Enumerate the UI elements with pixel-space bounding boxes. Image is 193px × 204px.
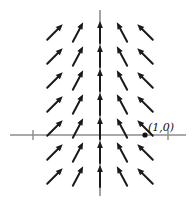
arrow-2	[97, 21, 103, 43]
arrow-12	[97, 69, 103, 91]
axes-group	[10, 10, 186, 196]
arrow-shaft-9	[141, 52, 153, 64]
arrow-shaft-8	[119, 51, 127, 66]
arrow-33	[117, 166, 127, 185]
arrow-18	[117, 94, 127, 113]
arrow-shaft-33	[119, 171, 127, 186]
point-label-1-0: (1,0)	[148, 121, 174, 134]
arrow-14	[137, 72, 153, 88]
arrow-shaft-25	[47, 148, 59, 160]
arrow-shaft-0	[47, 28, 59, 40]
arrow-head-17	[97, 93, 103, 100]
arrow-field-group	[47, 21, 153, 187]
arrow-31	[73, 166, 83, 185]
arrow-6	[73, 46, 83, 65]
arrow-shaft-1	[73, 27, 81, 42]
arrow-5	[47, 48, 63, 64]
arrow-shaft-30	[47, 172, 59, 184]
arrow-30	[47, 168, 63, 184]
arrow-head-12	[97, 69, 103, 76]
arrow-head-27	[97, 141, 103, 148]
arrow-shaft-34	[141, 172, 153, 184]
arrow-8	[117, 46, 127, 65]
arrow-shaft-28	[119, 147, 127, 162]
arrow-32	[97, 165, 103, 187]
arrow-25	[47, 144, 63, 160]
arrow-7	[97, 45, 103, 67]
arrow-head-22	[97, 117, 103, 124]
arrow-15	[47, 96, 63, 112]
vector-field-figure: (1,0)	[0, 0, 193, 204]
arrow-27	[97, 141, 103, 163]
arrow-shaft-6	[73, 51, 81, 66]
arrow-26	[73, 142, 83, 161]
point-marker-1-0	[142, 132, 147, 137]
arrow-4	[137, 24, 153, 40]
arrow-shaft-29	[141, 148, 153, 160]
arrow-19	[137, 96, 153, 112]
arrow-shaft-18	[119, 99, 127, 114]
arrow-head-32	[97, 165, 103, 172]
arrow-34	[137, 168, 153, 184]
arrow-shaft-15	[47, 100, 59, 112]
arrow-9	[137, 48, 153, 64]
arrow-10	[47, 72, 63, 88]
arrow-shaft-5	[47, 52, 59, 64]
arrow-1	[73, 22, 83, 41]
arrow-17	[97, 93, 103, 115]
arrow-11	[73, 70, 83, 89]
arrow-shaft-4	[141, 28, 153, 40]
arrow-3	[117, 22, 127, 41]
arrow-16	[73, 94, 83, 113]
vector-field-canvas: (1,0)	[0, 0, 193, 204]
arrow-shaft-3	[119, 27, 127, 42]
arrow-shaft-31	[73, 171, 81, 186]
arrow-shaft-13	[119, 75, 127, 90]
arrow-20	[47, 120, 63, 136]
arrow-shaft-11	[73, 75, 81, 90]
arrow-29	[137, 144, 153, 160]
arrow-shaft-14	[141, 76, 153, 88]
arrow-shaft-19	[141, 100, 153, 112]
arrow-shaft-16	[73, 99, 81, 114]
arrow-head-7	[97, 45, 103, 52]
arrow-shaft-26	[73, 147, 81, 162]
arrow-shaft-10	[47, 76, 59, 88]
arrow-0	[47, 24, 63, 40]
arrow-head-2	[97, 21, 103, 28]
arrow-13	[117, 70, 127, 89]
arrow-28	[117, 142, 127, 161]
arrow-shaft-20	[47, 124, 59, 136]
